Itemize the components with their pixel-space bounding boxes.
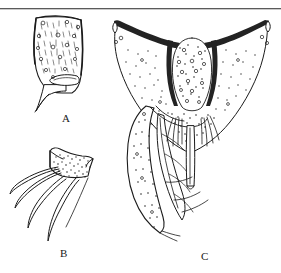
figure-b-label: B bbox=[60, 247, 68, 259]
figure-b bbox=[8, 145, 103, 245]
page-header-rule-shadow bbox=[0, 9, 281, 10]
figure-c bbox=[108, 14, 278, 246]
figure-plate: A bbox=[0, 0, 281, 273]
figure-a-label: A bbox=[62, 112, 70, 124]
figure-a bbox=[22, 14, 100, 116]
figure-c-label: C bbox=[201, 250, 209, 262]
